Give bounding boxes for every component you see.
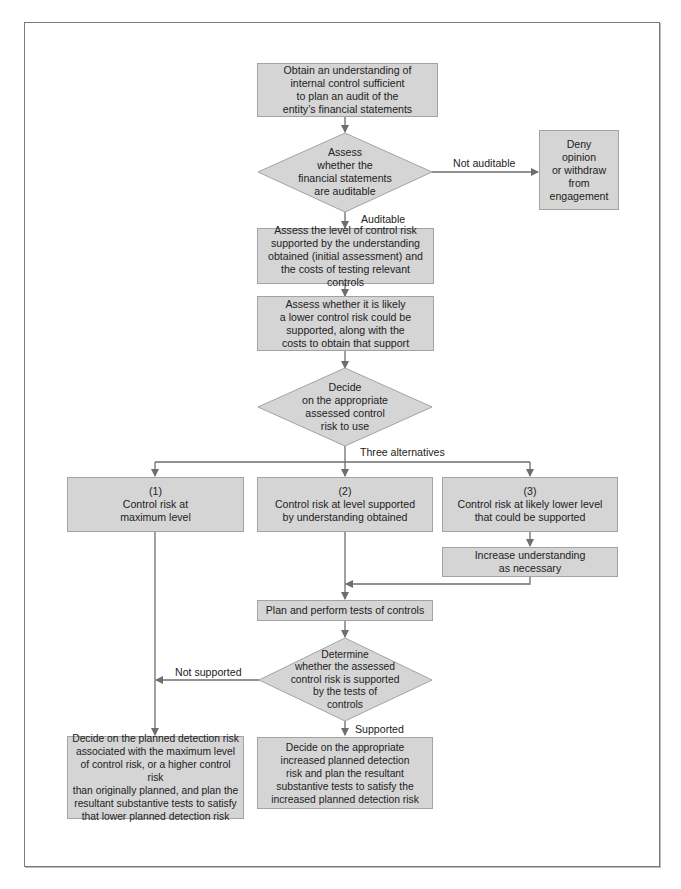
edge-label-three-alternatives: Three alternatives <box>360 446 445 459</box>
node-plan-perform: Plan and perform tests of controls <box>257 600 433 621</box>
edge-label-supported: Supported <box>355 723 404 736</box>
node-assess-lower: Assess whether it is likely a lower cont… <box>257 296 434 351</box>
node-alt1-maximum: (1) Control risk at maximum level <box>67 477 244 532</box>
node-decide-max-detection: Decide on the planned detection risk ass… <box>67 736 244 819</box>
node-assess-level: Assess the level of control risk support… <box>257 228 434 284</box>
node-assess-auditable: Assess whether the financial statements … <box>268 140 422 204</box>
node-decide-assessed: Decide on the appropriate assessed contr… <box>268 376 422 438</box>
node-determine: Determine whether the assessed control r… <box>276 645 414 715</box>
node-deny-opinion: Deny opinion or withdraw from engagement <box>539 130 619 210</box>
edge-label-not-auditable: Not auditable <box>453 157 515 170</box>
node-alt3-lower: (3) Control risk at likely lower level t… <box>442 477 618 532</box>
node-decide-increased-detection: Decide on the appropriate increased plan… <box>257 737 433 809</box>
node-alt2-supported: (2) Control risk at level supported by u… <box>257 477 433 532</box>
node-increase-understanding: Increase understanding as necessary <box>442 547 618 577</box>
edge-label-not-supported: Not supported <box>175 666 242 679</box>
node-obtain-understanding: Obtain an understanding of internal cont… <box>257 63 438 117</box>
